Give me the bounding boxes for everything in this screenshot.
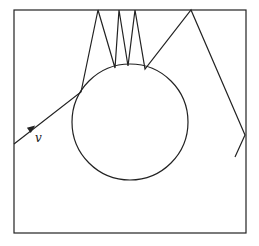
box-boundary [14,10,246,233]
billiard-diagram: v [0,0,259,246]
velocity-label: v [35,131,42,145]
circular-obstacle [72,64,188,180]
trajectory-path [14,10,245,157]
